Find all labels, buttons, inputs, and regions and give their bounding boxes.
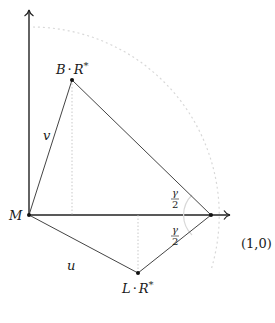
edge-v: [29, 80, 72, 215]
label-b: B·R*: [55, 60, 89, 77]
label-v: v: [43, 128, 51, 143]
label-l: L·R*: [121, 279, 154, 296]
label-u: u: [67, 258, 75, 273]
point-l: [136, 271, 140, 275]
label-gamma-lower-den: 2: [172, 236, 178, 247]
edge-u: [29, 215, 138, 273]
point-b: [70, 78, 74, 82]
label-m: M: [8, 208, 23, 223]
edge-b-p: [72, 80, 211, 215]
label-origin-point: (1,0): [241, 236, 272, 251]
label-gamma-upper-num: γ: [172, 187, 178, 198]
point-p: [209, 213, 213, 217]
label-gamma-upper-den: 2: [172, 199, 178, 210]
point-m: [27, 213, 31, 217]
label-gamma-lower-num: γ: [172, 224, 178, 235]
geometry-diagram: M B·R* L·R* (1,0) v u γ 2 γ 2: [0, 0, 275, 323]
